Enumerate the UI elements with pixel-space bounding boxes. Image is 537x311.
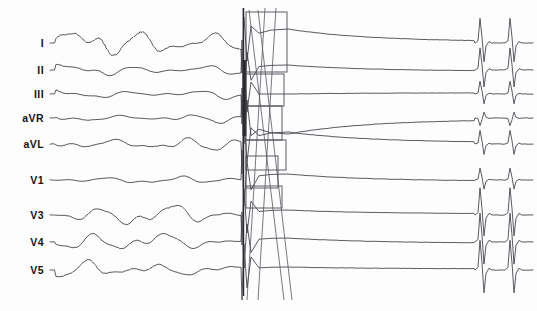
lead-label-v1: V1 [30, 174, 44, 186]
artifact-box-5 [246, 156, 278, 188]
lead-label-v4: V4 [30, 236, 44, 248]
ecg-traces [50, 17, 533, 300]
artifact-diagonal-3 [249, 10, 284, 300]
artifact-diagonal-1 [247, 8, 265, 300]
lead-trace-v4 [50, 212, 533, 268]
lead-trace-avr [50, 88, 533, 144]
lead-trace-v1 [50, 150, 533, 206]
lead-label-v3: V3 [30, 209, 44, 221]
shock-bar-line [243, 8, 244, 296]
shock-artifact-group [243, 8, 293, 300]
lead-label-v5: V5 [30, 264, 44, 276]
lead-label-ii: II [37, 64, 44, 76]
ecg-canvas [0, 0, 537, 311]
lead-trace-avl [50, 118, 533, 174]
lead-trace-v5 [50, 240, 533, 300]
lead-label-i: I [41, 37, 44, 49]
lead-trace-i [50, 17, 533, 73]
lead-trace-ii [50, 40, 533, 96]
lead-label-iii: III [34, 88, 44, 100]
lead-label-avl: aVL [24, 138, 44, 150]
lead-trace-v3 [50, 188, 533, 245]
artifact-diagonal-2 [258, 8, 276, 300]
ecg-figure: IIIIIIaVRaVLV1V3V4V5 [0, 0, 537, 311]
artifact-box-1 [246, 12, 287, 72]
lead-label-avr: aVR [22, 112, 44, 124]
